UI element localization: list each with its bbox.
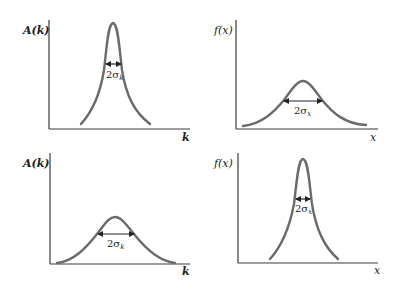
fourier-width-diagram: 2σk A(k) k 2σx f(x) x 2σk A(k) k 2σx f(x… [0, 0, 401, 295]
y-axis-label: A(k) [22, 157, 50, 170]
panel-top-right: 2σx f(x) x [213, 20, 378, 144]
width-label: 2σx [295, 203, 312, 216]
width-label: 2σk [107, 238, 124, 251]
width-label: 2σx [294, 105, 311, 118]
y-axis-label: f(x) [213, 157, 233, 170]
y-axis-label: A(k) [22, 24, 50, 37]
x-axis-label: k [182, 131, 190, 144]
panel-top-left: 2σk A(k) k [22, 20, 190, 144]
broad-peak-curve [243, 81, 366, 126]
panel-bottom-right: 2σx f(x) x [213, 153, 381, 277]
panel-bottom-left: 2σk A(k) k [22, 153, 190, 278]
y-axis-label: f(x) [213, 24, 233, 37]
x-axis-label: x [370, 131, 377, 144]
x-axis-label: x [374, 264, 381, 277]
width-label: 2σk [106, 69, 123, 82]
x-axis-label: k [182, 265, 190, 278]
